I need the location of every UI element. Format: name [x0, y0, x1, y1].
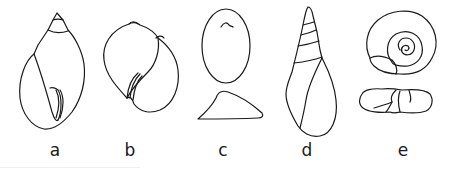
shell-b-drawing	[104, 22, 179, 112]
label-a: a	[40, 140, 70, 160]
shell-e-drawing	[360, 11, 437, 113]
label-b: b	[115, 140, 145, 160]
shell-d-drawing	[286, 7, 336, 136]
shell-a-drawing	[20, 13, 85, 129]
shell-c-drawing	[198, 9, 263, 119]
bottom-divider	[0, 167, 140, 168]
label-d: d	[292, 140, 322, 160]
shell-forms-diagram: a b c d e	[0, 0, 451, 169]
label-e: e	[388, 140, 418, 160]
label-c: c	[208, 140, 238, 160]
